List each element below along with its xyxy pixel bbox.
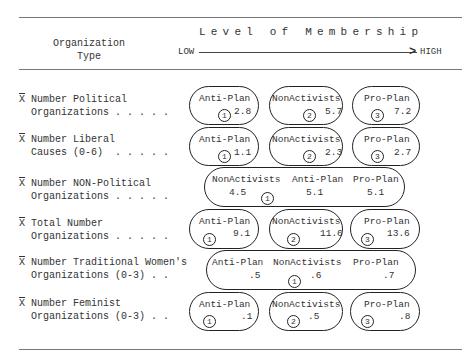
row-label: X Number Liberal Causes (0-6) . . . . . xyxy=(19,133,169,159)
xbar-symbol: X xyxy=(19,178,25,189)
group-value: 11.6 xyxy=(320,228,343,239)
group-name: NonActivists xyxy=(272,216,340,227)
xbar-symbol: X xyxy=(19,218,25,229)
label-line2: Organizations (0-3) . . xyxy=(19,311,169,322)
label-line2: Organizations . . . . . xyxy=(19,107,169,118)
group-name: Pro-Plan xyxy=(364,93,410,104)
group-name: Pro-Plan xyxy=(364,216,410,227)
group-oval xyxy=(269,292,343,331)
group-value: .5 xyxy=(308,311,319,322)
rank-circle: 3 xyxy=(371,109,384,122)
xbar-symbol: X xyxy=(19,298,25,309)
header-line2: Type xyxy=(44,50,134,63)
top-rule xyxy=(19,17,462,18)
row-label: X Number Political Organizations . . . .… xyxy=(19,93,169,119)
group-name: Anti-Plan xyxy=(292,174,343,185)
header-line1: Organization xyxy=(44,37,134,50)
group-name: NonActivists xyxy=(272,93,340,104)
group-value: 13.6 xyxy=(387,228,410,239)
rank-circle: 1 xyxy=(218,150,231,163)
group-value: 1.1 xyxy=(234,147,251,158)
label-line1: Number Liberal xyxy=(31,134,115,145)
arrow-right-icon: > xyxy=(409,45,416,59)
label-line1: Number NON-Political xyxy=(31,178,151,189)
rank-circle: 1 xyxy=(203,233,216,246)
label-line2: Organizations (0-3) . . xyxy=(19,270,169,281)
row-label: X Number Feminist Organizations (0-3) . … xyxy=(19,297,169,323)
group-name: Anti-Plan xyxy=(199,216,250,227)
rank-circle: 3 xyxy=(361,315,374,328)
xbar-symbol: X xyxy=(19,257,25,268)
group-name: Anti-Plan xyxy=(199,134,250,145)
rank-circle: 1 xyxy=(218,109,231,122)
group-value: 5.1 xyxy=(367,187,384,198)
rank-circle: 2 xyxy=(303,150,316,163)
level-of-membership-header: Level of Membership xyxy=(199,26,423,38)
rank-circle: 3 xyxy=(361,233,374,246)
label-line1: Number Traditional Women's xyxy=(31,257,187,268)
label-line2: Causes (0-6) . . . . . xyxy=(19,147,169,158)
rank-circle: 3 xyxy=(371,150,384,163)
group-name: Anti-Plan xyxy=(199,93,250,104)
group-name: NonActivists xyxy=(212,174,280,185)
group-value: 5.7 xyxy=(325,106,342,117)
xbar-symbol: X xyxy=(19,134,25,145)
group-name: NonActivists xyxy=(272,134,340,145)
rank-circle: 1 xyxy=(288,275,301,288)
group-name: Pro-Plan xyxy=(353,257,399,268)
group-name: NonActivists xyxy=(272,299,340,310)
group-name: Anti-Plan xyxy=(199,299,250,310)
organization-type-header: Organization Type xyxy=(44,37,134,63)
row-label: X Number Traditional Women's Organizatio… xyxy=(19,256,187,282)
group-value: 2.3 xyxy=(325,147,342,158)
header-rule xyxy=(19,69,462,70)
group-value: 2.7 xyxy=(394,147,411,158)
group-value: 7.2 xyxy=(394,106,411,117)
xbar-symbol: X xyxy=(19,94,25,105)
group-value: .7 xyxy=(383,270,394,281)
rank-circle: 1 xyxy=(261,192,274,205)
row-label: X Total Number Organizations . . . . . xyxy=(19,217,169,243)
group-name: Anti-Plan xyxy=(212,257,263,268)
label-line1: Number Feminist xyxy=(31,298,121,309)
group-name: NonActivists xyxy=(273,257,341,268)
bottom-rule xyxy=(19,349,462,350)
rank-circle: 1 xyxy=(203,315,216,328)
group-value: .8 xyxy=(399,311,410,322)
rank-circle: 2 xyxy=(287,315,300,328)
group-value: 9.1 xyxy=(233,228,250,239)
group-value: .1 xyxy=(241,311,252,322)
label-line1: Total Number xyxy=(31,218,103,229)
rank-circle: 2 xyxy=(287,233,300,246)
rank-circle: 2 xyxy=(303,109,316,122)
low-label: LOW xyxy=(178,47,194,57)
group-value: .5 xyxy=(249,270,260,281)
group-value: 4.5 xyxy=(229,187,246,198)
label-line1: Number Political xyxy=(31,94,127,105)
group-name: Pro-Plan xyxy=(353,174,399,185)
group-name: Pro-Plan xyxy=(364,299,410,310)
group-value: 5.1 xyxy=(306,187,323,198)
group-value: 2.8 xyxy=(234,106,251,117)
label-line2: Organizations . . . . . xyxy=(19,231,169,242)
row-label: X Number NON-Political Organizations . .… xyxy=(19,177,169,203)
group-value: .6 xyxy=(310,270,321,281)
label-line2: Organizations . . . . . xyxy=(19,191,169,202)
group-name: Pro-Plan xyxy=(364,134,410,145)
high-label: HIGH xyxy=(420,47,442,57)
arrow-line xyxy=(199,52,417,53)
